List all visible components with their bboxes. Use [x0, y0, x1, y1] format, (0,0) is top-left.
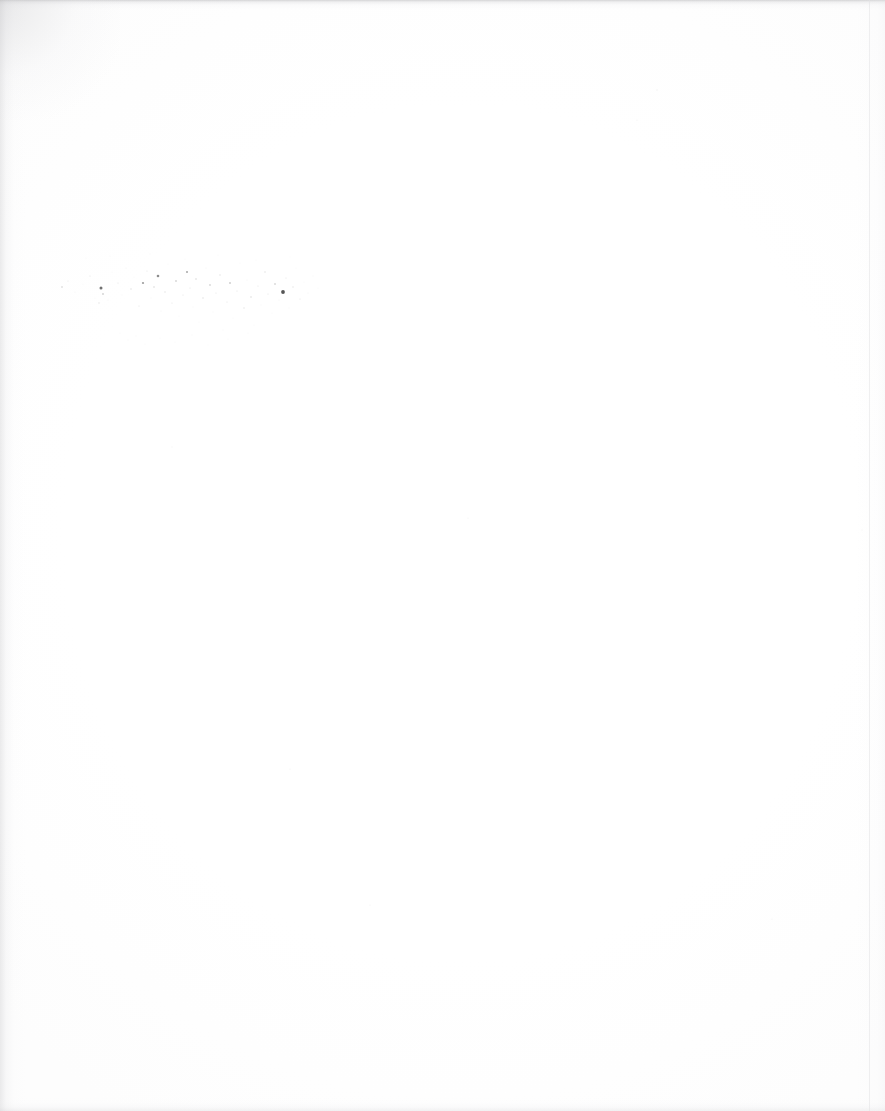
bottom-scan-shadow — [0, 1097, 885, 1111]
stray-speck-upper-right — [656, 89, 657, 90]
scanned-page: Blank scanned sheet, near-white througho… — [0, 0, 885, 1111]
page-description: Blank scanned sheet, near-white througho… — [0, 16, 1, 17]
stray-speck-bottom — [369, 904, 370, 905]
right-scan-shadow — [855, 0, 885, 1111]
top-left-corner-shadow — [0, 0, 120, 120]
sheet-right-edge-line — [869, 0, 870, 1111]
stray-speck-far-right — [861, 529, 862, 530]
stray-speck-mid-right — [636, 119, 637, 120]
artifact-label: Diffuse field of isolated dark specks; n… — [0, 16, 1, 17]
top-scan-shadow — [0, 0, 885, 10]
stray-speck-center — [467, 517, 468, 518]
stray-speck-layer — [0, 0, 885, 1111]
paper-background — [0, 0, 885, 1111]
stray-speck-right-low — [771, 918, 772, 919]
speckle-noise-cluster — [55, 252, 323, 352]
stray-speck-lower-left — [171, 446, 172, 447]
stray-speck-lower-mid — [289, 768, 290, 769]
left-scan-shadow — [0, 0, 26, 1111]
